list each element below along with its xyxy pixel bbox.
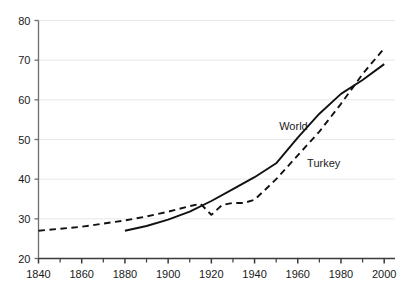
y-tick-label: 60 (18, 94, 30, 106)
x-tick-label: 2000 (372, 268, 396, 280)
y-tick-labels: 20304050607080 (18, 15, 30, 265)
x-tick-label: 1840 (26, 268, 50, 280)
x-tick-label: 1880 (113, 268, 137, 280)
series-label-turkey: Turkey (307, 157, 341, 169)
y-tick-label: 30 (18, 213, 30, 225)
x-tick-labels: 184018601880190019201940196019802000 (26, 268, 396, 280)
y-tick-label: 40 (18, 173, 30, 185)
gridlines (39, 21, 396, 219)
x-tick-label: 1980 (329, 268, 353, 280)
y-tick-label: 70 (18, 54, 30, 66)
line-chart: 20304050607080 1840186018801900192019401… (0, 0, 411, 291)
series-line-world (125, 64, 384, 231)
x-tick-label: 1940 (242, 268, 266, 280)
x-tick-label: 1960 (286, 268, 310, 280)
y-tick-label: 50 (18, 134, 30, 146)
x-tick-label: 1900 (156, 268, 180, 280)
y-tick-label: 80 (18, 15, 30, 27)
x-axis (39, 259, 396, 264)
y-axis (35, 21, 39, 259)
series-annotations: WorldTurkey (279, 120, 341, 170)
series-label-world: World (279, 120, 308, 132)
x-tick-label: 1920 (199, 268, 223, 280)
y-tick-label: 20 (18, 253, 30, 265)
x-tick-label: 1860 (69, 268, 93, 280)
chart-container: 20304050607080 1840186018801900192019401… (0, 0, 411, 291)
